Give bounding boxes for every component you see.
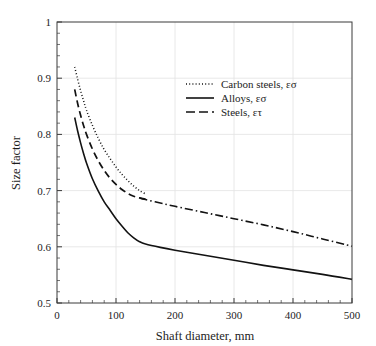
series-dashdot [140,198,352,246]
x-tick-label: 100 [108,309,125,321]
x-axis-title: Shaft diameter, mm [156,329,255,343]
chart-legend: Carbon steels, εσAlloys, εσSteels, ετ [186,78,297,118]
legend-label-dashed: Steels, ετ [221,106,262,118]
y-tick-label: 0.6 [37,241,51,253]
x-axis-tick-labels: 0100200300400500 [54,309,361,321]
x-tick-label: 300 [226,309,243,321]
chart-svg: 0100200300400500 0.50.60.70.80.91 Shaft … [0,0,376,346]
y-tick-label: 0.5 [37,297,51,309]
series-dotted [75,67,146,194]
axis-ticks [57,22,352,303]
series-dashed [75,89,146,199]
y-tick-label: 0.7 [37,185,51,197]
y-axis-tick-labels: 0.50.60.70.80.91 [37,16,51,309]
y-axis-title: Size factor [9,135,23,190]
plot-frame [57,22,352,303]
chart-figure: 0100200300400500 0.50.60.70.80.91 Shaft … [0,0,376,346]
x-tick-label: 0 [54,309,60,321]
y-tick-label: 0.9 [37,72,51,84]
y-tick-label: 0.8 [37,128,51,140]
legend-label-dotted: Carbon steels, εσ [221,78,297,90]
grid-lines [57,22,352,303]
y-tick-label: 1 [46,16,52,28]
x-tick-label: 500 [344,309,361,321]
x-tick-label: 200 [167,309,184,321]
legend-label-solid: Alloys, εσ [221,92,266,104]
x-tick-label: 400 [285,309,302,321]
